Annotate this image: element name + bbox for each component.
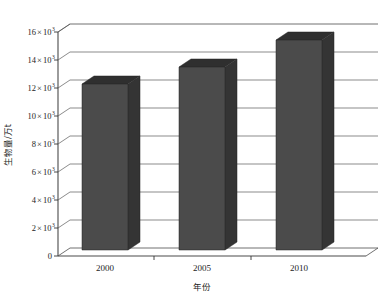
- xtick-label-2005: 2005: [193, 263, 212, 273]
- xtick-label-2000: 2000: [96, 263, 115, 273]
- bar-2010[interactable]: [276, 32, 334, 250]
- ytick-label-10000-mantissa: 10: [28, 111, 37, 121]
- ytick-label-4000-base: 10: [43, 195, 52, 205]
- bar-2000[interactable]: [82, 76, 140, 250]
- x-tick-labels: 2000 2005 2010: [96, 263, 309, 273]
- ytick-label-14000-times: ×: [37, 55, 42, 65]
- ytick-label-12000-mantissa: 12: [28, 83, 37, 93]
- ytick-label-8000-times: ×: [37, 139, 42, 149]
- bar-chart-3d: 0 2 × 10 3 4 × 10 3 6 × 10 3 8 × 10 3 10…: [0, 0, 383, 297]
- ytick-label-6000-times: ×: [37, 167, 42, 177]
- ytick-label-12000-times: ×: [37, 83, 42, 93]
- gridline-16000: [58, 24, 70, 32]
- ytick-label-4000-exp: 3: [52, 194, 55, 200]
- ytick-label-10000-base: 10: [43, 111, 52, 121]
- ytick-label-16000-mantissa: 16: [28, 27, 37, 37]
- ytick-label-2000-base: 10: [43, 223, 52, 233]
- ytick-label-16000-exp: 3: [52, 26, 55, 32]
- chart-container: 0 2 × 10 3 4 × 10 3 6 × 10 3 8 × 10 3 10…: [0, 0, 383, 297]
- bar-2005-side: [225, 59, 237, 250]
- ytick-label-14000-base: 10: [43, 55, 52, 65]
- ytick-label-6000-exp: 3: [52, 166, 55, 172]
- ytick-label-2000-mantissa: 2: [32, 223, 36, 233]
- ytick-label-14000-mantissa: 14: [28, 55, 37, 65]
- ytick-label-12000-exp: 3: [52, 82, 55, 88]
- ytick-label-14000-exp: 3: [52, 54, 55, 60]
- ytick-label-12000-base: 10: [43, 83, 52, 93]
- xtick-label-2010: 2010: [290, 263, 309, 273]
- ytick-label-8000-mantissa: 8: [32, 139, 36, 149]
- ytick-label-2000-exp: 3: [52, 222, 55, 228]
- frame-floor-right: [366, 248, 378, 256]
- bar-2000-side: [128, 76, 140, 250]
- x-axis-title: 年份: [193, 282, 211, 292]
- ytick-label-4000-mantissa: 4: [32, 195, 37, 205]
- ytick-label-6000-base: 10: [43, 167, 52, 177]
- ytick-label-6000-mantissa: 6: [32, 167, 36, 177]
- ytick-label-8000-base: 10: [43, 139, 52, 149]
- ytick-label-16000-base: 10: [43, 27, 52, 37]
- bar-2010-side: [322, 32, 334, 250]
- ytick-label-2000-times: ×: [37, 223, 42, 233]
- x-tickmarks: [154, 256, 251, 260]
- ytick-label-8000-exp: 3: [52, 138, 55, 144]
- ytick-label-10000-exp: 3: [52, 110, 55, 116]
- frame-floor-left: [58, 248, 70, 256]
- bar-2005-front: [179, 67, 225, 250]
- ytick-label-4000-times: ×: [37, 195, 42, 205]
- bar-2010-front: [276, 40, 322, 250]
- ytick-label-10000-times: ×: [37, 111, 42, 121]
- ytick-label-0: 0: [48, 251, 52, 261]
- y-tick-labels: 0 2 × 10 3 4 × 10 3 6 × 10 3 8 × 10 3 10…: [28, 26, 56, 261]
- bar-2005[interactable]: [179, 59, 237, 250]
- bar-2000-front: [82, 84, 128, 250]
- ytick-label-16000-times: ×: [37, 27, 42, 37]
- y-axis-title: 生物量/万t: [3, 123, 13, 166]
